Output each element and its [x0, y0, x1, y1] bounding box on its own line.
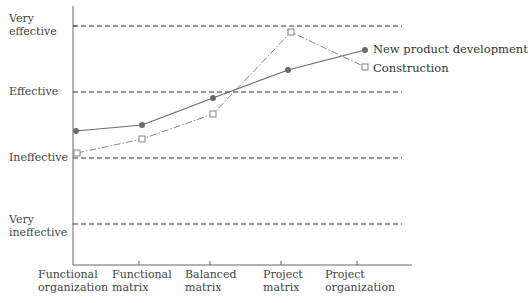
ylabel-very-effective: Very effective: [9, 12, 57, 38]
ylabel-effective: Effective: [9, 85, 58, 98]
xlabel-functional-matrix: Functional matrix: [112, 268, 172, 294]
legend-construction: Construction: [373, 61, 449, 75]
ylabel-very-ineffective: Very ineffective: [9, 213, 67, 239]
ylabel-ineffective: Ineffective: [9, 151, 68, 164]
xlabel-line: matrix: [185, 281, 237, 294]
xlabel-functional-organization: Functional organization: [38, 268, 108, 294]
xlabel-line: Project: [325, 268, 395, 281]
x-ticks: [139, 261, 357, 265]
xlabel-line: Functional: [112, 268, 172, 281]
ylabel-line: Very: [9, 12, 57, 25]
ylabel-line: effective: [9, 25, 57, 38]
series-new-product-line: [76, 50, 365, 131]
xlabel-line: Project: [263, 268, 303, 281]
xlabel-line: organization: [38, 281, 108, 294]
xlabel-line: organization: [325, 281, 395, 294]
ylabel-line: ineffective: [9, 226, 67, 239]
xlabel-line: matrix: [112, 281, 172, 294]
series-new-product-markers: [73, 47, 368, 134]
xlabel-line: matrix: [263, 281, 303, 294]
xlabel-project-organization: Project organization: [325, 268, 395, 294]
xlabel-line: Balanced: [185, 268, 237, 281]
gridlines: [73, 26, 402, 224]
xlabel-balanced-matrix: Balanced matrix: [185, 268, 237, 294]
legend-new-product-development: New product development: [373, 42, 528, 56]
ylabel-line: Very: [9, 213, 67, 226]
ylabel-line: Effective: [9, 85, 58, 98]
xlabel-line: Functional: [38, 268, 108, 281]
xlabel-project-matrix: Project matrix: [263, 268, 303, 294]
ylabel-line: Ineffective: [9, 151, 68, 164]
